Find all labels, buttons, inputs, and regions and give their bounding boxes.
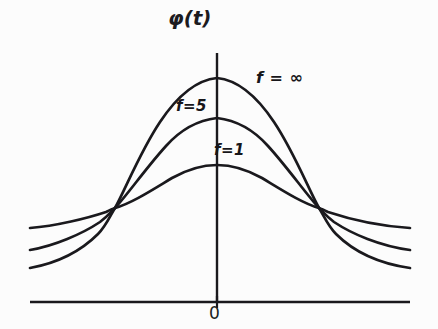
curve-annotation-f-1: f=1 xyxy=(214,141,245,159)
x-axis-origin-label: 0 xyxy=(209,303,220,323)
curve-annotation-f-5: f=5 xyxy=(176,97,207,115)
curve-f-infinity xyxy=(30,78,410,268)
curve-annotation-f-infinity: f = ∞ xyxy=(256,68,303,87)
plot-area xyxy=(0,0,438,329)
figure-container: φ(t) f = ∞ f=5 f=1 0 xyxy=(0,0,438,329)
curve-f-1 xyxy=(30,165,410,228)
curve-f-5 xyxy=(30,118,410,250)
